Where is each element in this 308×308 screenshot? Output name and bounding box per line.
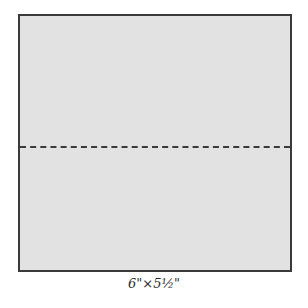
fold-line-dashed	[20, 146, 290, 148]
dimension-caption: 6"×5½"	[0, 276, 308, 291]
paper-sheet	[18, 14, 292, 272]
